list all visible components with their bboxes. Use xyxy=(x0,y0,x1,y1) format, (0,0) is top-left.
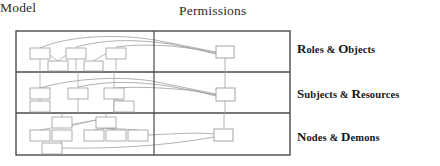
row-label-subjects-resources: Subjects & Resources xyxy=(297,86,399,102)
row-label-subjects-cap2: R xyxy=(351,86,361,101)
row-label-roles-cap: R xyxy=(297,41,307,56)
figure-root: Model Permissions xyxy=(0,0,440,166)
row-label-nodes-cap2: D xyxy=(341,129,351,144)
model-nodes-row-1 xyxy=(30,48,126,71)
permission-node-subjects-resources xyxy=(216,88,235,101)
permission-node-nodes-demons xyxy=(214,129,233,141)
row-label-subjects-mid: ubjects & xyxy=(304,89,351,100)
row-label-nodes-cap: N xyxy=(297,129,307,144)
row-label-roles-objects: Roles & Objects xyxy=(297,41,375,57)
row-label-nodes-tail: emons xyxy=(351,132,380,143)
row-label-roles-tail: bjects xyxy=(348,44,375,55)
permission-node-roles-objects xyxy=(216,46,234,58)
row-label-nodes-demons: Nodes & Demons xyxy=(297,129,380,145)
row-label-subjects-tail: esources xyxy=(361,89,400,100)
row-label-roles-mid: oles & xyxy=(307,44,339,55)
row-label-roles-cap2: O xyxy=(338,41,348,56)
row-label-nodes-mid: odes & xyxy=(307,132,342,143)
